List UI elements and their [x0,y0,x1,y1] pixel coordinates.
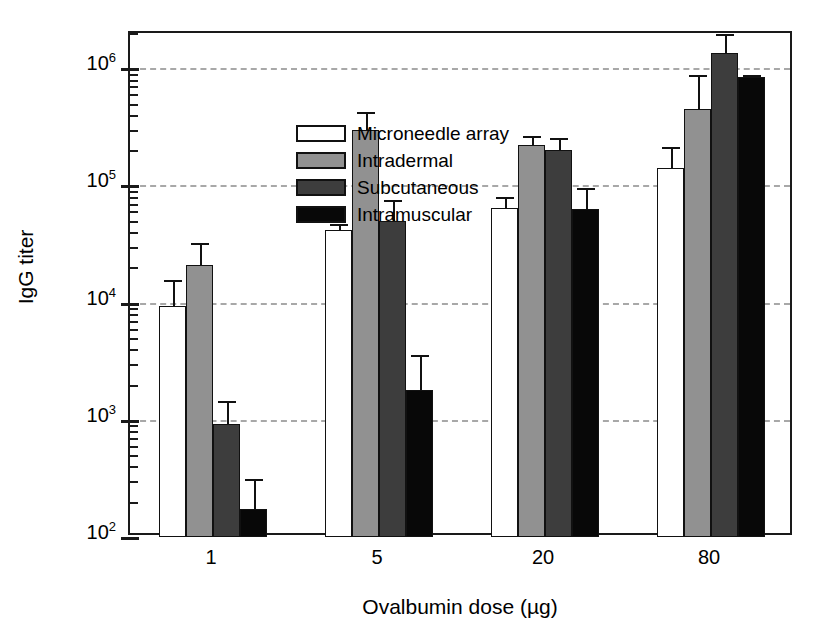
error-bar-cap [218,401,236,403]
y-tick-minor [129,267,138,269]
bar [159,306,186,537]
y-tick-minor [129,329,138,331]
error-bar-stem [586,188,588,209]
bar [711,53,738,537]
bar [186,265,213,537]
y-axis-label: IgG titer [14,197,38,337]
bar [545,150,572,537]
y-tick-label: 106 [38,52,116,75]
y-tick-minor [129,425,138,427]
y-tick-minor [129,481,138,483]
x-tick-label: 80 [669,546,749,569]
legend-item: Microneedle array [296,121,546,146]
error-bar-stem [725,34,727,53]
y-tick-major [121,420,139,423]
y-tick-minor [129,385,138,387]
x-tick-label: 5 [337,546,417,569]
error-bar-stem [173,280,175,306]
y-tick-minor [129,431,138,433]
bar [213,424,240,537]
bar [684,109,711,537]
error-bar-stem [227,401,229,424]
y-tick-minor [129,232,138,234]
legend-label: Intramuscular [357,204,472,226]
legend-swatch-gray [296,152,346,169]
y-tick-minor [129,33,138,35]
error-bar-cap [550,138,568,140]
error-bar-cap [245,479,263,481]
bar [738,77,765,537]
y-tick-major [121,537,139,540]
y-tick-minor [129,211,138,213]
igg-titer-bar-chart: IgG titer Ovalbumin dose (µg) 1061051041… [0,0,821,642]
x-tick-label: 1 [171,546,251,569]
y-tick-minor [129,349,138,351]
error-bar-stem [698,75,700,109]
legend-item: Intramuscular [296,202,546,227]
error-bar-cap [191,243,209,245]
y-tick-major [121,185,139,188]
error-bar-cap [689,75,707,77]
y-tick-minor [129,197,138,199]
y-tick-minor [129,502,138,504]
y-tick-minor [129,321,138,323]
error-bar-cap [411,355,429,357]
y-tick-minor [129,308,138,310]
error-bar-stem [671,147,673,169]
legend-swatch-dgray [296,179,346,196]
y-tick-minor [129,446,138,448]
error-bar-cap [577,188,595,190]
y-tick-minor [129,221,138,223]
bar [572,209,599,537]
legend-label: Subcutaneous [357,177,479,199]
error-bar-stem [254,479,256,508]
legend-swatch-white [296,125,346,142]
y-tick-minor [129,115,138,117]
y-tick-minor [129,104,138,106]
bar [491,208,518,537]
y-tick-minor [129,314,138,316]
y-tick-minor [129,338,138,340]
error-bar-stem [420,355,422,390]
gridline [130,68,790,70]
legend-swatch-black [296,206,346,223]
error-bar-cap [662,147,680,149]
y-tick-major [121,68,139,71]
legend-item: Subcutaneous [296,175,546,200]
bar [325,230,352,537]
plot-area: Microneedle arrayIntradermalSubcutaneous… [128,31,792,535]
y-tick-minor [129,438,138,440]
legend-label: Intradermal [357,150,453,172]
y-tick-minor [129,130,138,132]
bar [406,390,433,537]
error-bar-stem [200,243,202,264]
y-tick-minor [129,247,138,249]
error-bar-cap [164,280,182,282]
bar [657,168,684,537]
y-tick-label: 104 [38,287,116,310]
x-tick-label: 20 [503,546,583,569]
y-tick-major [121,303,139,306]
y-tick-minor [129,94,138,96]
bar [379,221,406,537]
y-tick-minor [129,204,138,206]
x-axis-label: Ovalbumin dose (µg) [128,595,792,619]
error-bar-cap [743,75,761,77]
y-tick-minor [129,74,138,76]
y-tick-label: 105 [38,169,116,192]
y-tick-minor [129,191,138,193]
y-tick-label: 102 [38,521,116,544]
y-tick-minor [129,86,138,88]
error-bar-cap [716,34,734,36]
error-bar-cap [357,112,375,114]
y-tick-minor [129,455,138,457]
y-tick-minor [129,466,138,468]
y-tick-minor [129,150,138,152]
legend-label: Microneedle array [357,123,509,145]
y-tick-minor [129,80,138,82]
bar [240,509,267,537]
y-tick-minor [129,364,138,366]
y-tick-label: 103 [38,404,116,427]
legend: Microneedle arrayIntradermalSubcutaneous… [296,121,546,229]
legend-item: Intradermal [296,148,546,173]
